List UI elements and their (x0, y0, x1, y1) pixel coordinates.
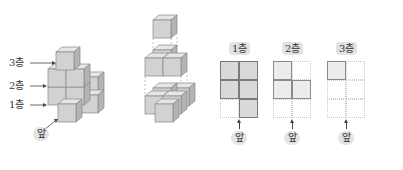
grid-cell-empty (220, 99, 239, 118)
layer-plan-title: 3층 (336, 42, 357, 55)
grid-cell-filled (273, 80, 292, 99)
layer-3-label: 3층 (9, 57, 24, 69)
layer-grid (220, 61, 258, 118)
up-arrow-icon (346, 122, 347, 129)
layer-1-label: 1층 (9, 99, 24, 111)
layer-plan-title: 2층 (282, 42, 303, 55)
grid-cell-empty (292, 61, 311, 80)
grid-cell-filled (239, 99, 258, 118)
front-label: 앞 (284, 131, 300, 145)
grid-cell-empty (327, 80, 346, 99)
front-label: 앞 (338, 131, 354, 145)
grid-cell-filled (239, 80, 258, 99)
grid-cell-empty (346, 99, 365, 118)
grid-cell-filled (220, 80, 239, 99)
grid-cell-empty (346, 61, 365, 80)
layer-grid (273, 61, 311, 118)
front-label: 앞 (33, 127, 49, 141)
grid-cell-empty (346, 80, 365, 99)
up-arrow-icon (292, 122, 293, 129)
grid-cell-empty (273, 99, 292, 118)
front-label: 앞 (231, 131, 247, 145)
grid-cell-filled (239, 61, 258, 80)
layer-2-label: 2층 (9, 80, 24, 92)
up-arrow-icon (239, 122, 240, 129)
grid-cell-empty (327, 99, 346, 118)
grid-cell-filled (273, 61, 292, 80)
layer-plan-title: 1층 (229, 42, 250, 55)
grid-cell-filled (220, 61, 239, 80)
grid-cell-empty (292, 99, 311, 118)
grid-cell-filled (292, 80, 311, 99)
grid-cell-filled (327, 61, 346, 80)
layer-grid (327, 61, 365, 118)
